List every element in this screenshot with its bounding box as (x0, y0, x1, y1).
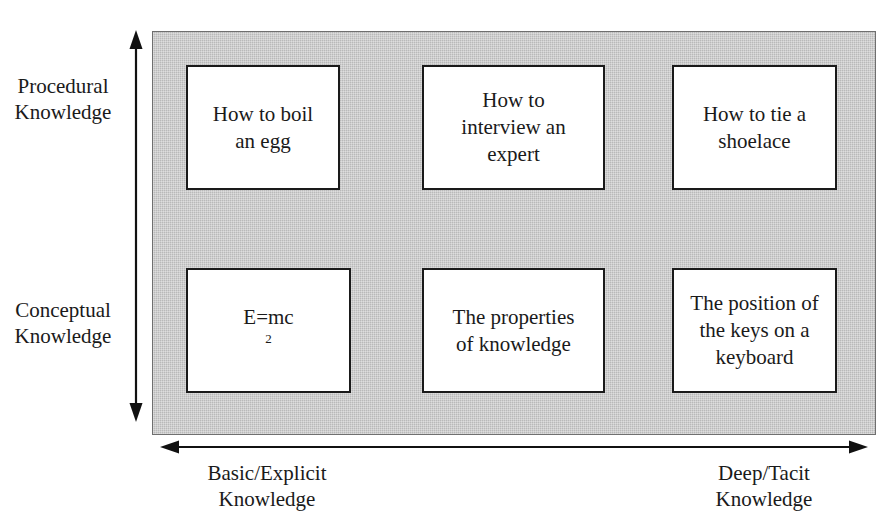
cell-text-line3: keyboard (690, 344, 818, 371)
matrix-cell-procedural-deep: How to tie a shoelace (672, 65, 837, 190)
cell-text-line2: interview an (461, 114, 565, 141)
vertical-axis-arrow-icon (124, 28, 148, 424)
cell-text-line1: How to tie a (703, 101, 806, 128)
horizontal-axis-arrow-icon (158, 436, 870, 458)
axis-label-line1: Conceptual (2, 297, 124, 323)
axis-label-line2: Knowledge (640, 486, 888, 512)
cell-text-line2: an egg (213, 128, 313, 155)
cell-text-line3: expert (461, 141, 565, 168)
axis-label-line2: Knowledge (2, 99, 124, 125)
axis-label-line1: Basic/Explicit (143, 460, 391, 486)
cell-text-line2: shoelace (703, 128, 806, 155)
axis-label-line1: Deep/Tacit (640, 460, 888, 486)
cell-text-line1: How to boil (213, 101, 313, 128)
cell-formula-superscript: 2 (265, 331, 272, 346)
clipped-caption-text (0, 0, 896, 6)
cell-text-line1: E=mc2 (243, 304, 293, 358)
cell-text-line2: of knowledge (453, 331, 575, 358)
matrix-cell-conceptual-basic: E=mc2 (186, 268, 351, 393)
matrix-cell-procedural-middle: How to interview an expert (422, 65, 605, 190)
axis-label-line2: Knowledge (143, 486, 391, 512)
axis-label-line2: Knowledge (2, 323, 124, 349)
cell-text-line1: The properties (453, 304, 575, 331)
matrix-cell-conceptual-middle: The properties of knowledge (422, 268, 605, 393)
cell-formula-base: E=mc (243, 304, 293, 331)
axis-label-procedural-knowledge: Procedural Knowledge (2, 73, 124, 125)
axis-label-line1: Procedural (2, 73, 124, 99)
knowledge-matrix-figure: How to boil an egg How to interview an e… (0, 0, 896, 532)
axis-label-basic-explicit-knowledge: Basic/Explicit Knowledge (143, 460, 391, 512)
axis-label-deep-tacit-knowledge: Deep/Tacit Knowledge (640, 460, 888, 512)
axis-label-conceptual-knowledge: Conceptual Knowledge (2, 297, 124, 349)
cell-text-line1: The position of (690, 290, 818, 317)
matrix-cell-procedural-basic: How to boil an egg (186, 65, 340, 190)
cell-text-line1: How to (461, 87, 565, 114)
matrix-cell-conceptual-deep: The position of the keys on a keyboard (672, 268, 837, 393)
cell-text-line2: the keys on a (690, 317, 818, 344)
